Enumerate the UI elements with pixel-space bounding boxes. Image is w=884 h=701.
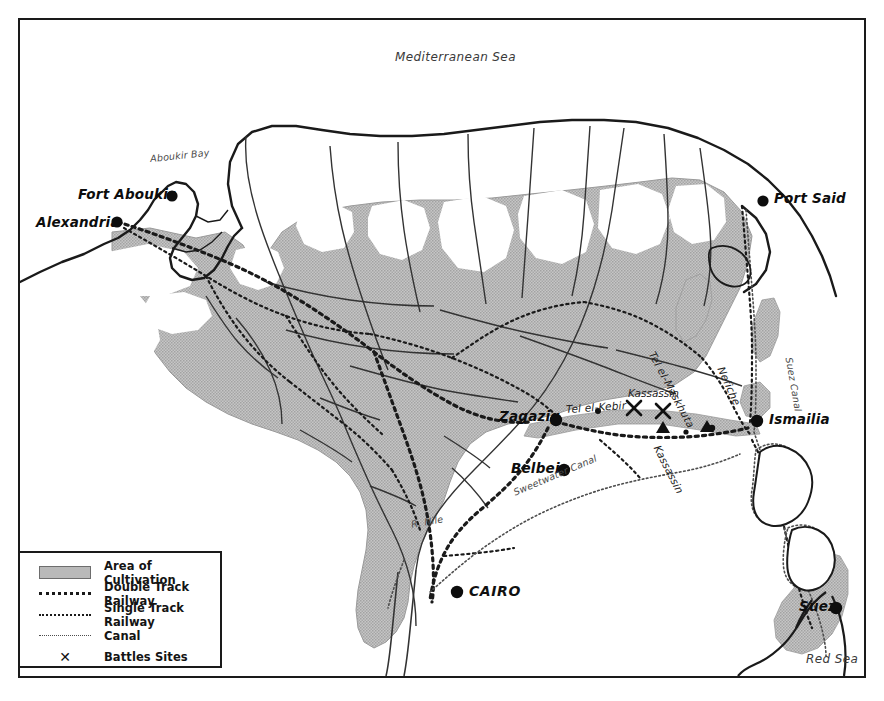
city-dot-belbeis xyxy=(558,464,570,476)
city-dot-fort-aboukir xyxy=(166,190,177,201)
legend-label-battles-sites: Battles Sites xyxy=(104,650,188,664)
legend-label-single-track: Single Track Railway xyxy=(104,601,220,629)
city-dot-alexandria xyxy=(111,216,122,227)
city-dot-port-said xyxy=(757,195,768,206)
map-legend: Area of Cultivation Double Track Railway… xyxy=(18,551,222,668)
city-dot-zagazig xyxy=(550,414,562,426)
legend-swatch-single-track xyxy=(34,608,96,622)
map-root: Mediterranean Sea Aboukir Bay Red Sea Al… xyxy=(0,0,884,701)
bitter-lakes xyxy=(753,446,835,591)
station-dot-tel-el-kebir xyxy=(595,408,601,414)
legend-item-battles-sites: ✕ Battles Sites xyxy=(20,646,220,667)
legend-swatch-double-track xyxy=(34,587,96,601)
legend-item-single-track-railway: Single Track Railway xyxy=(20,604,220,625)
legend-swatch-cultivation xyxy=(34,566,96,580)
city-dot-suez xyxy=(830,602,842,614)
battle-x-icon: ✕ xyxy=(34,650,96,664)
legend-swatch-canal xyxy=(34,629,96,643)
city-dot-ismailia xyxy=(751,415,763,427)
legend-x-glyph: ✕ xyxy=(59,650,71,664)
station-dot-maskhuta xyxy=(683,429,688,434)
legend-label-canal: Canal xyxy=(104,629,141,643)
city-dot-cairo xyxy=(451,586,463,598)
